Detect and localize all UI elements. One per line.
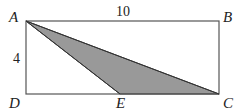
- length-label-ad: 4: [13, 51, 20, 66]
- geometry-diagram: A B C D E 10 4: [0, 0, 241, 111]
- vertex-label-e: E: [115, 95, 125, 111]
- length-label-ab: 10: [116, 4, 130, 19]
- vertex-label-c: C: [223, 95, 234, 111]
- vertex-label-b: B: [223, 9, 232, 25]
- vertex-label-d: D: [8, 95, 20, 111]
- vertex-label-a: A: [8, 9, 19, 25]
